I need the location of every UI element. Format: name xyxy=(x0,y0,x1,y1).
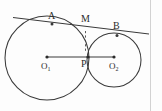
point-marker-b xyxy=(116,34,119,37)
label-center-o2-base: O xyxy=(109,61,116,71)
point-marker-a xyxy=(51,23,54,26)
label-point-p: P xyxy=(81,59,87,69)
right-frame-border xyxy=(150,0,151,111)
label-point-a: A xyxy=(48,11,55,21)
point-marker-o2 xyxy=(112,55,115,58)
label-center-o1: O1 xyxy=(41,62,51,71)
label-center-o1-subscript: 1 xyxy=(48,66,51,72)
point-marker-o1 xyxy=(45,55,48,58)
label-center-o2-subscript: 2 xyxy=(116,66,119,72)
circle-o2 xyxy=(87,33,141,87)
label-center-o2: O2 xyxy=(109,62,119,71)
figure-canvas: A M B P O1 O2 xyxy=(0,0,162,111)
label-point-b: B xyxy=(113,21,120,31)
label-center-o1-base: O xyxy=(41,61,48,71)
label-point-m: M xyxy=(81,14,90,24)
